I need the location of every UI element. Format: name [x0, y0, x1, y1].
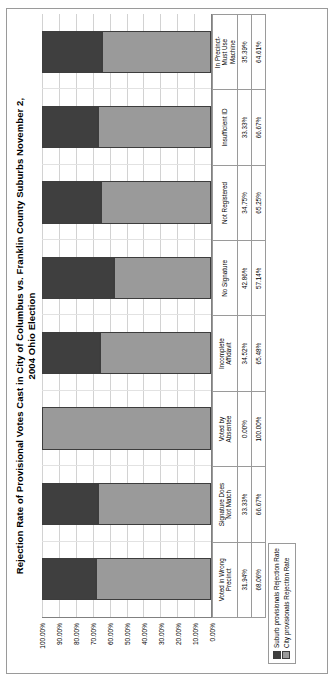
- y-axis-tick-label: 100.00%: [39, 623, 46, 649]
- table-row-suburb: 31.94%33.33%0.00%34.52%42.86%34.75%33.33…: [238, 15, 252, 618]
- stacked-bar[interactable]: [42, 257, 211, 299]
- stacked-bar[interactable]: [42, 407, 211, 449]
- chart-title-line-2: 2004 Ohio Election: [26, 20, 38, 652]
- y-axis-tick-label: 10.00%: [192, 623, 199, 645]
- table-column-header: In Precinct-Must UseMachine: [213, 15, 238, 90]
- bar-segment-city[interactable]: [96, 558, 211, 600]
- table-cell-suburb: 31.94%: [238, 542, 252, 617]
- stacked-bar[interactable]: [42, 106, 211, 148]
- chart-title: Rejection Rate of Provisional Votes Cast…: [14, 20, 38, 652]
- table-cell-city: 68.06%: [252, 542, 266, 617]
- y-axis-tick-label: 40.00%: [141, 623, 148, 645]
- bar-segment-city[interactable]: [114, 257, 211, 299]
- table-header-row: Voted in WrongPrecinctSignature DoesNot …: [213, 15, 238, 618]
- table-cell-suburb: 0.00%: [238, 391, 252, 466]
- bar-slot: [42, 165, 211, 240]
- bar-segment-suburb[interactable]: [42, 558, 96, 600]
- legend-swatch-icon-city: [282, 651, 290, 659]
- table-cell-suburb: 35.39%: [238, 15, 252, 90]
- bar-segment-city[interactable]: [101, 181, 211, 223]
- table-cell-city: 65.48%: [252, 316, 266, 391]
- bar-segment-city[interactable]: [100, 332, 211, 374]
- table-column-header: Signature DoesNot Match: [213, 467, 238, 542]
- y-axis-tick-label: 60.00%: [107, 623, 114, 645]
- bar-slot: [42, 14, 211, 89]
- bar-segment-suburb[interactable]: [42, 31, 102, 73]
- bar-segment-suburb[interactable]: [42, 257, 114, 299]
- table-column-header: No Signature: [213, 241, 238, 316]
- bar-segment-city[interactable]: [98, 483, 211, 525]
- table-cell-suburb: 33.33%: [238, 90, 252, 165]
- bar-series-group: [42, 14, 211, 617]
- table-cell-suburb: 33.33%: [238, 467, 252, 542]
- stacked-bar[interactable]: [42, 332, 211, 374]
- bar-slot: [42, 466, 211, 541]
- bar-slot: [42, 240, 211, 315]
- data-table-wrapper: Voted in WrongPrecinctSignature DoesNot …: [212, 14, 260, 618]
- y-axis-tick-label: 90.00%: [56, 623, 63, 645]
- table-cell-suburb: 42.86%: [238, 241, 252, 316]
- table-column-header: IncompleteAffidavit: [213, 316, 238, 391]
- table-column-header: Insufficient ID: [213, 90, 238, 165]
- bar-slot: [42, 89, 211, 164]
- table-cell-city: 64.61%: [252, 15, 266, 90]
- bar-segment-city[interactable]: [98, 106, 211, 148]
- table-column-header: Not Registered: [213, 165, 238, 240]
- stacked-bar[interactable]: [42, 558, 211, 600]
- table-cell-city: 57.14%: [252, 241, 266, 316]
- table-cell-city: 100.00%: [252, 391, 266, 466]
- legend-swatch-icon-suburb: [273, 651, 281, 659]
- chart-title-line-1: Rejection Rate of Provisional Votes Cast…: [14, 20, 26, 652]
- chart-canvas: Rejection Rate of Provisional Votes Cast…: [0, 0, 334, 682]
- legend-item-city: City provisionals Rejection Rate: [282, 548, 290, 659]
- legend-item-suburb: Suburb provisionals Rejection Rate: [273, 548, 281, 659]
- table-cell-city: 66.67%: [252, 467, 266, 542]
- legend-label-suburb: Suburb provisionals Rejection Rate: [273, 548, 280, 648]
- chart-legend: Suburb provisionals Rejection Rate City …: [268, 543, 296, 664]
- stacked-bar[interactable]: [42, 31, 211, 73]
- legend-label-city: City provisionals Rejection Rate: [283, 558, 290, 648]
- bar-slot: [42, 391, 211, 466]
- table-column-header: Voted in WrongPrecinct: [213, 542, 238, 617]
- table-column-header: Voted byAbsentee: [213, 391, 238, 466]
- bar-slot: [42, 542, 211, 617]
- y-axis-tick-label: 30.00%: [158, 623, 165, 645]
- y-axis-tick-label: 50.00%: [124, 623, 131, 645]
- rotated-page-wrapper: Rejection Rate of Provisional Votes Cast…: [0, 0, 334, 682]
- y-axis-tick-label: 70.00%: [90, 623, 97, 645]
- plot-area: [42, 14, 212, 618]
- stacked-bar[interactable]: [42, 483, 211, 525]
- y-axis-tick-labels: 100.00%90.00%80.00%70.00%60.00%50.00%40.…: [42, 620, 212, 664]
- y-axis-tick-label: 80.00%: [73, 623, 80, 645]
- table-cell-suburb: 34.75%: [238, 165, 252, 240]
- table-cell-city: 65.25%: [252, 165, 266, 240]
- bar-segment-suburb[interactable]: [42, 483, 98, 525]
- y-axis-tick-label: 0.00%: [209, 623, 216, 641]
- stacked-bar[interactable]: [42, 181, 211, 223]
- table-cell-city: 66.67%: [252, 90, 266, 165]
- bar-segment-suburb[interactable]: [42, 106, 98, 148]
- data-table: Voted in WrongPrecinctSignature DoesNot …: [212, 14, 266, 618]
- bar-slot: [42, 316, 211, 391]
- y-axis-tick-label: 20.00%: [175, 623, 182, 645]
- plot-area-wrapper: 100.00%90.00%80.00%70.00%60.00%50.00%40.…: [42, 14, 212, 664]
- bar-segment-suburb[interactable]: [42, 181, 101, 223]
- bar-segment-city[interactable]: [102, 31, 211, 73]
- table-row-city: 68.06%66.67%100.00%65.48%57.14%65.25%66.…: [252, 15, 266, 618]
- bar-segment-suburb[interactable]: [42, 332, 100, 374]
- bar-segment-city[interactable]: [42, 407, 211, 449]
- table-cell-suburb: 34.52%: [238, 316, 252, 391]
